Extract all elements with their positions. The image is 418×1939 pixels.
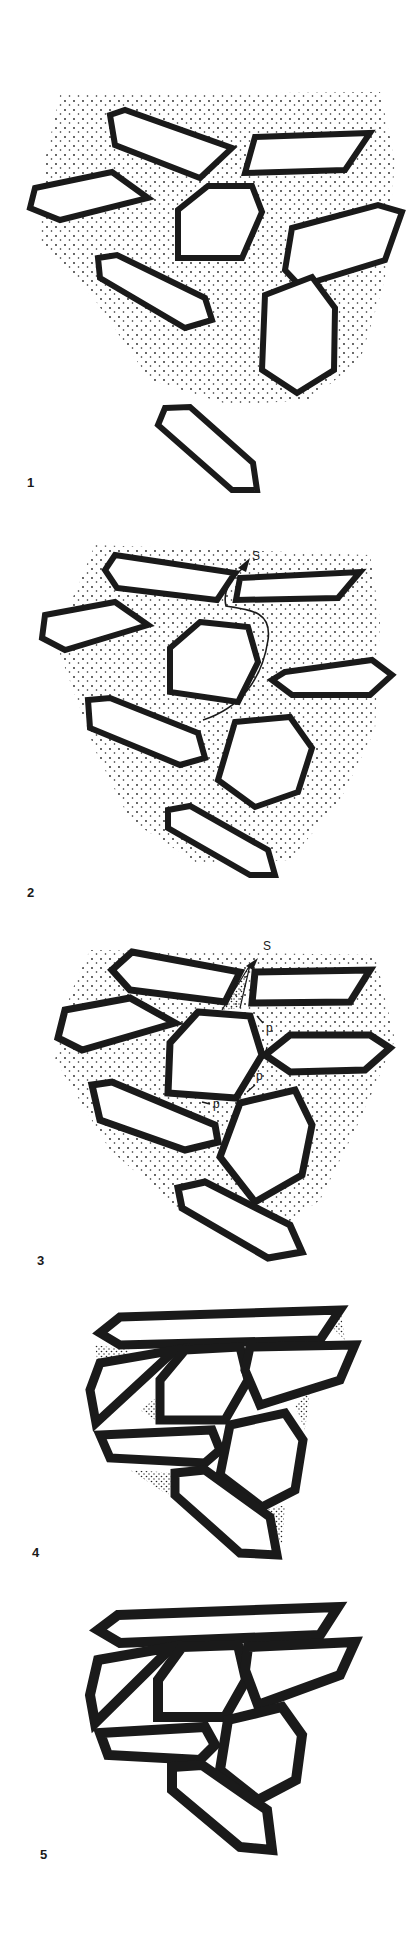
panel-1-drawing <box>0 80 418 500</box>
grain-prism <box>236 572 360 600</box>
grain-hexagon <box>158 1645 246 1717</box>
grain-prism <box>245 1345 355 1405</box>
grain-hexagon <box>170 622 258 702</box>
grain-prism <box>98 1607 338 1643</box>
grain-prism <box>100 1310 340 1345</box>
grain-hexagon <box>262 277 335 393</box>
annotation-p: p <box>256 1070 263 1082</box>
panel-number: 4 <box>32 1545 39 1560</box>
panel-number: 1 <box>27 475 34 490</box>
panel-2: S 2 <box>0 530 418 900</box>
grain-prism <box>100 1430 220 1463</box>
annotation-s: S <box>252 550 260 562</box>
panel-5: 5 <box>0 1595 418 1895</box>
grain-prism <box>252 970 370 1003</box>
panel-4-drawing <box>0 1295 418 1585</box>
grain-hexagon <box>178 186 262 258</box>
panel-number: 3 <box>37 1253 44 1268</box>
grain-hexagon <box>218 717 312 807</box>
panel-1: 1 <box>0 80 418 500</box>
panel-number: 5 <box>40 1847 47 1862</box>
annotation-s: S <box>263 940 271 952</box>
panel-5-drawing <box>0 1595 418 1895</box>
grain-prism <box>245 1642 355 1705</box>
panel-3: S p p p 3 <box>0 920 418 1280</box>
grain-hexagon <box>160 1347 248 1420</box>
grain-prism <box>158 407 257 490</box>
panel-number: 2 <box>27 885 34 900</box>
grain-prism <box>100 1727 215 1760</box>
grain-prism <box>265 1035 390 1072</box>
annotation-p: p <box>266 1022 273 1034</box>
panel-2-drawing <box>0 530 418 900</box>
panel-4: 4 <box>0 1295 418 1585</box>
annotation-p: p <box>213 1098 220 1110</box>
panel-3-drawing <box>0 920 418 1280</box>
